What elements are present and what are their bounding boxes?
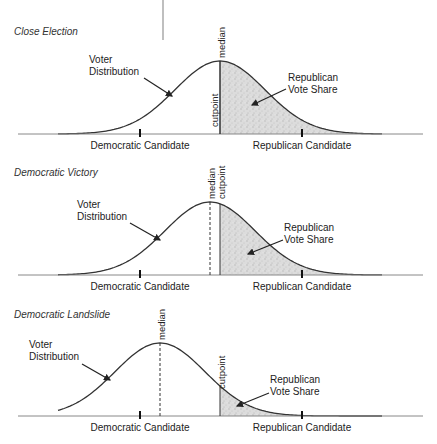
voter-distribution-arrow [130,223,160,240]
median-label: median [156,309,167,340]
voter-distribution-arrow [144,78,172,96]
republican-candidate-label: Republican Candidate [253,281,352,292]
panel-title: Close Election [14,26,78,37]
voter-distribution-arrow [82,364,110,380]
voter-distribution-label: Voter Distribution [29,339,79,362]
democratic-candidate-label: Democratic Candidate [91,422,190,433]
voter-distribution-label: Voter Distribution [77,199,127,222]
republican-vote-share-label: Republican Vote Share [288,72,341,95]
vote-share-arrow [237,393,269,406]
democratic-candidate-label: Democratic Candidate [91,281,190,292]
cutpoint-label: cutpoint [216,165,227,199]
republican-vote-share-label: Republican Vote Share [270,374,323,397]
median-label: median [216,27,227,58]
republican-candidate-label: Republican Candidate [253,422,352,433]
spatial-voting-diagram: Close Election Voter Distribution Republ… [0,0,437,444]
republican-vote-share-label: Republican Vote Share [284,222,337,245]
panel-democratic-victory: Democratic Victory Voter Distribution Re… [14,165,423,292]
panel-title: Democratic Victory [14,167,99,178]
democratic-candidate-label: Democratic Candidate [91,140,190,151]
voter-distribution-label: Voter Distribution [89,54,139,77]
cutpoint-label: cutpoint [209,93,220,127]
cutpoint-label: cutpoint [216,355,227,389]
panel-close-election: Close Election Voter Distribution Republ… [14,26,423,151]
republican-candidate-label: Republican Candidate [253,140,352,151]
panel-title: Democratic Landslide [14,309,111,320]
panel-democratic-landslide: Democratic Landslide Voter Distribution … [14,309,423,433]
